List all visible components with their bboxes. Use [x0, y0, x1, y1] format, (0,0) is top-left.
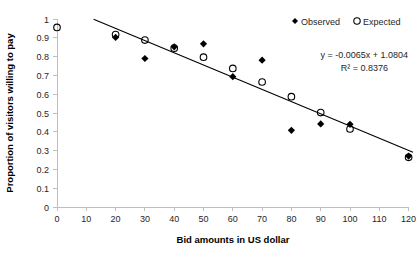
x-axis-title: Bid amounts in US dollar [177, 234, 290, 245]
regression-equation: y = -0.0065x + 1.0804 [320, 50, 408, 60]
x-tick-label-50: 50 [198, 214, 208, 224]
data-point-expected [230, 65, 237, 72]
x-tick-label-0: 0 [54, 214, 59, 224]
y-tick-label-0-7: 0.7 [36, 71, 49, 81]
x-tick-label-20: 20 [111, 214, 121, 224]
y-tick-label-0-4: 0.4 [36, 127, 49, 137]
series-expected-markers [54, 24, 412, 161]
r-squared-label: R² = 0.8376 [341, 63, 388, 73]
y-tick-label-0-6: 0.6 [36, 90, 49, 100]
expected-marker-icon [354, 18, 360, 24]
x-tick-label-60: 60 [228, 214, 238, 224]
x-tick-label-30: 30 [140, 214, 150, 224]
y-tick-label-0: 0 [44, 203, 49, 213]
chart-legend: Observed Expected [292, 17, 401, 27]
x-axis-ticks [57, 207, 409, 211]
data-point-observed [288, 127, 295, 134]
y-tick-label-0-3: 0.3 [36, 146, 49, 156]
x-tick-label-110: 110 [372, 214, 386, 224]
x-tick-label-70: 70 [257, 214, 267, 224]
legend-label-expected: Expected [363, 17, 401, 27]
data-point-observed [141, 55, 148, 62]
y-axis-ticks [53, 19, 57, 207]
data-point-observed [317, 120, 324, 127]
y-axis-title: Proportion of visitors willing to pay [4, 33, 15, 193]
data-point-observed [200, 40, 207, 47]
y-tick-label-1: 1 [44, 15, 49, 25]
y-tick-label-0-5: 0.5 [36, 109, 49, 119]
y-tick-label-0-2: 0.2 [36, 165, 49, 175]
data-point-observed [259, 57, 266, 64]
y-tick-label-0-9: 0.9 [36, 33, 49, 43]
data-point-expected [200, 54, 207, 61]
scatter-plot: 1 0.9 0.8 0.7 0.6 0.5 0.4 0.3 0.2 0.1 0 … [0, 0, 420, 262]
x-tick-label-80: 80 [286, 214, 296, 224]
y-tick-label-0-1: 0.1 [36, 184, 49, 194]
x-tick-label-100: 100 [342, 214, 357, 224]
data-point-observed [229, 73, 236, 80]
x-tick-label-120: 120 [401, 214, 416, 224]
x-tick-label-90: 90 [316, 214, 326, 224]
legend-label-observed: Observed [301, 17, 340, 27]
data-point-expected [288, 93, 295, 100]
data-point-observed [112, 34, 119, 41]
observed-marker-icon [292, 18, 298, 24]
chart-container: 1 0.9 0.8 0.7 0.6 0.5 0.4 0.3 0.2 0.1 0 … [0, 0, 420, 262]
y-tick-label-0-8: 0.8 [36, 52, 49, 62]
x-tick-label-40: 40 [169, 214, 179, 224]
x-tick-label-10: 10 [81, 214, 91, 224]
data-point-expected [259, 79, 266, 86]
